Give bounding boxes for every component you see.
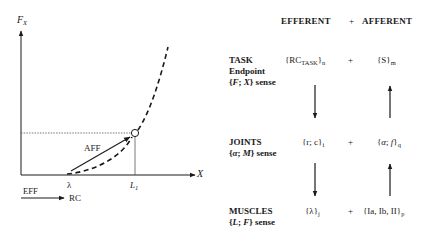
row-muscles-plus: + (348, 206, 353, 216)
row-joints-plus: + (348, 137, 353, 147)
row-muscles-afferent: {Ia, Ib, II}p (363, 206, 404, 216)
row-muscles-sense: {L; F} sense (229, 217, 275, 227)
row-joints-afferent: {α; f}q (377, 137, 401, 147)
row-joints-efferent: {r; c}i (302, 137, 324, 147)
row-joints-title: JOINTS (229, 137, 262, 147)
row-joints-sense: {α; M} sense (229, 148, 277, 158)
row-muscles-title: MUSCLES (229, 206, 273, 216)
flow-arrows (0, 0, 432, 235)
row-muscles-efferent: {λ}j (305, 206, 320, 216)
